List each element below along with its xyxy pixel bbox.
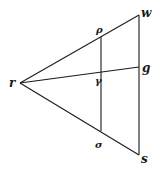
geometric-diagram: r w ρ g γ σ s (0, 0, 160, 174)
label-g: g (142, 61, 150, 75)
label-r: r (9, 76, 17, 90)
label-gamma: γ (95, 75, 102, 86)
segment-r-w (20, 15, 139, 83)
label-sigma: σ (95, 139, 103, 150)
label-rho: ρ (95, 24, 103, 35)
segment-r-g (20, 67, 139, 83)
label-w: w (141, 6, 152, 20)
label-s: s (141, 152, 148, 166)
segment-r-s (20, 83, 139, 155)
